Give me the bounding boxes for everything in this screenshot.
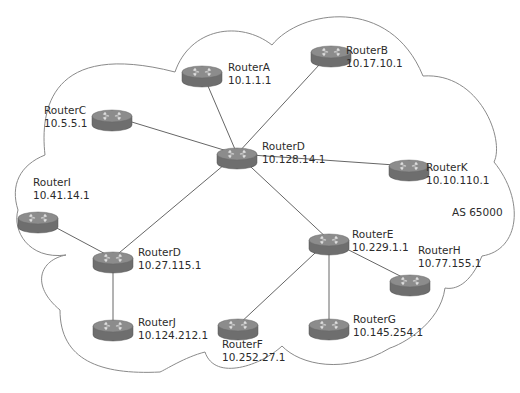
router-icon[interactable] [217, 148, 257, 169]
router-name: RouterD [262, 140, 325, 153]
router-label-d2: RouterD10.27.115.1 [138, 246, 201, 272]
router-icon[interactable] [18, 212, 58, 233]
router-name: RouterJ [138, 316, 208, 329]
router-icon[interactable] [92, 110, 132, 131]
router-ip: 10.77.155.1 [418, 257, 481, 270]
router-icon[interactable] [309, 234, 349, 255]
router-icon[interactable] [309, 319, 349, 340]
router-ip: 10.5.5.1 [44, 117, 87, 130]
router-label-c: RouterC10.5.5.1 [44, 104, 87, 130]
router-icon[interactable] [311, 46, 351, 67]
router-ip: 10.10.110.1 [426, 174, 489, 187]
as-number-label: AS 65000 [452, 206, 503, 218]
router-name: RouterF [222, 338, 285, 351]
router-ip: 10.145.254.1 [353, 326, 423, 339]
router-ip: 10.128.14.1 [262, 153, 325, 166]
router-icon[interactable] [218, 319, 258, 340]
router-name: RouterB [346, 44, 403, 57]
router-name: RouterA [228, 61, 271, 74]
router-ip: 10.252.27.1 [222, 351, 285, 364]
router-label-j: RouterJ10.124.212.1 [138, 316, 208, 342]
router-label-b: RouterB10.17.10.1 [346, 44, 403, 70]
router-label-f: RouterF10.252.27.1 [222, 338, 285, 364]
router-label-h: RouterH10.77.155.1 [418, 244, 481, 270]
router-label-k: RouterK10.10.110.1 [426, 161, 489, 187]
router-label-a: RouterA10.1.1.1 [228, 61, 271, 87]
router-name: RouterD [138, 246, 201, 259]
router-name: RouterI [33, 176, 90, 189]
router-icon[interactable] [389, 160, 429, 181]
router-name: RouterC [44, 104, 87, 117]
router-ip: 10.1.1.1 [228, 74, 271, 87]
router-ip: 10.124.212.1 [138, 329, 208, 342]
router-ip: 10.229.1.1 [352, 241, 409, 254]
router-name: RouterK [426, 161, 489, 174]
router-icon[interactable] [182, 66, 222, 87]
router-name: RouterH [418, 244, 481, 257]
router-ip: 10.41.14.1 [33, 189, 90, 202]
router-name: RouterE [352, 228, 409, 241]
router-label-e: RouterE10.229.1.1 [352, 228, 409, 254]
router-icon[interactable] [93, 320, 133, 341]
router-ip: 10.27.115.1 [138, 259, 201, 272]
router-ip: 10.17.10.1 [346, 57, 403, 70]
router-label-d1: RouterD10.128.14.1 [262, 140, 325, 166]
router-label-g: RouterG10.145.254.1 [353, 313, 423, 339]
router-icon[interactable] [93, 252, 133, 273]
links-layer [38, 52, 410, 326]
router-icon[interactable] [390, 275, 430, 296]
link-d1-d2 [113, 154, 237, 258]
router-label-i: RouterI10.41.14.1 [33, 176, 90, 202]
router-name: RouterG [353, 313, 423, 326]
